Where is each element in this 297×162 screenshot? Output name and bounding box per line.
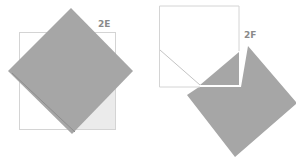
gray-flap-2f: [200, 52, 239, 85]
figure-2e: 2E: [8, 8, 133, 134]
fold-line-2f: [160, 50, 200, 85]
figure-label-2e: 2E: [98, 19, 110, 29]
gray-square-2f: [187, 46, 296, 157]
figure-label-2f: 2F: [244, 30, 256, 40]
figure-2f: 2F: [160, 6, 297, 157]
origami-diagram: 2E 2F: [0, 0, 296, 162]
